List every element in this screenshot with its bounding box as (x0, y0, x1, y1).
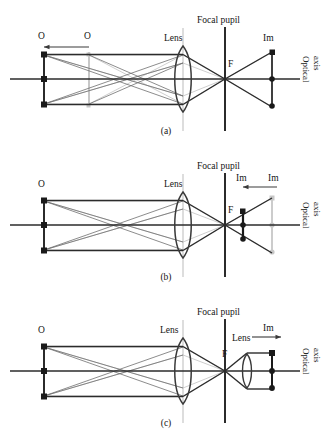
optical-diagram-figure: O O Lens Focal pupil F Im Optical axis (… (0, 0, 332, 438)
label-image-a: Im (263, 34, 274, 44)
label-focus-b: F (228, 206, 233, 216)
object-center-marker (41, 368, 47, 374)
label-optical-axis-c-line2: axis (312, 348, 321, 363)
panel-caption-b: (b) (0, 272, 332, 282)
image-center-marker (269, 368, 275, 374)
label-optical-axis-c-line1: Optical (301, 348, 310, 375)
label-object-near-a: O (38, 32, 45, 42)
image-top-marker (269, 350, 275, 356)
object-bottom-marker (41, 394, 47, 400)
label-object-c: O (38, 326, 45, 336)
object-top-marker (41, 52, 47, 58)
label-focal-pupil-b: Focal pupil (197, 162, 240, 172)
object-top-marker (41, 198, 47, 204)
label-optical-axis-b-line1: Optical (301, 202, 310, 229)
label-object-far-a: O (84, 32, 91, 42)
panel-a-drawing (0, 0, 332, 146)
label-lens-primary-c: Lens (160, 326, 178, 336)
image-shift-arrow (252, 335, 281, 339)
image-top-marker (270, 50, 276, 56)
label-lens-a: Lens (164, 34, 182, 44)
image-bottom-marker (269, 385, 275, 391)
image-center-marker (269, 76, 275, 82)
image-bottom-marker (240, 236, 246, 242)
object-shift-arrow (44, 45, 89, 49)
object-bottom-marker (41, 248, 47, 254)
label-optical-axis-b-line2: axis (312, 202, 321, 217)
panel-caption-a: (a) (0, 126, 332, 136)
label-focal-pupil-a: Focal pupil (197, 16, 240, 26)
label-optical-axis-a-line2: axis (312, 56, 321, 71)
panel-caption-c: (c) (0, 418, 332, 428)
image-top-marker (240, 209, 246, 215)
label-object-b: O (38, 180, 45, 190)
label-lens-b: Lens (164, 180, 182, 190)
panel-c-drawing (0, 292, 332, 438)
label-image-old-b: Im (268, 174, 279, 184)
object-center-marker (41, 222, 47, 228)
image-bottom-marker (269, 103, 275, 109)
label-focus-a: F (228, 60, 233, 70)
label-lens-secondary-c: Lens (232, 334, 250, 344)
image-center-marker (240, 222, 246, 228)
object-bottom-marker (41, 102, 47, 108)
label-focus-c: F (222, 350, 227, 360)
label-focal-pupil-c: Focal pupil (197, 308, 240, 318)
label-optical-axis-a-line1: Optical (301, 56, 310, 83)
object-top-marker (41, 344, 47, 350)
object-center-marker (41, 76, 47, 82)
panel-b-drawing (0, 146, 332, 292)
label-image-new-b: Im (236, 174, 247, 184)
panel-c: O Lens Focal pupil F Lens Im Optical axi… (0, 292, 332, 438)
panel-b: O Lens Focal pupil F Im Im Optical axis … (0, 146, 332, 292)
panel-a: O O Lens Focal pupil F Im Optical axis (… (0, 0, 332, 146)
label-image-c: Im (263, 324, 274, 334)
image-shift-arrow (243, 185, 277, 189)
